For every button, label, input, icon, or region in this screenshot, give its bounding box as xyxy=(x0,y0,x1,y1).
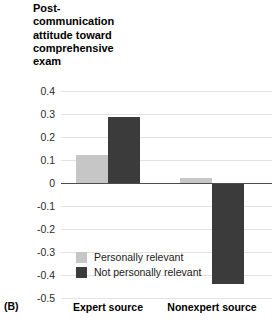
y-axis-tick-label: -0.1 xyxy=(9,201,55,212)
y-axis-tick-label: 0 xyxy=(9,178,55,189)
y-axis-tick-label: 0.2 xyxy=(9,132,55,143)
gridline xyxy=(61,114,272,115)
gridline xyxy=(61,298,272,299)
y-axis-tick-label: -0.3 xyxy=(9,247,55,258)
y-axis-tick-labels: 0.40.30.20.10-0.1-0.2-0.3-0.4-0.5 xyxy=(8,91,55,298)
y-axis-tick-label: 0.3 xyxy=(9,109,55,120)
y-axis-tick-label: 0.4 xyxy=(9,86,55,97)
legend-item-label: Not personally relevant xyxy=(94,267,201,278)
x-axis-tick-label: Expert source xyxy=(73,302,143,313)
chart-figure: Post- communication attitude toward comp… xyxy=(0,0,279,322)
legend-swatch-icon xyxy=(76,267,87,278)
x-axis-tick-labels: Expert sourceNonexpert source xyxy=(61,302,272,318)
y-axis-tick-label: -0.2 xyxy=(9,224,55,235)
y-axis-tick-label: 0.1 xyxy=(9,155,55,166)
legend-swatch-icon xyxy=(76,252,87,263)
legend-item: Not personally relevant xyxy=(76,265,201,280)
chart-title: Post- communication attitude toward comp… xyxy=(33,2,153,68)
legend-item: Personally relevant xyxy=(76,250,201,265)
legend-item-label: Personally relevant xyxy=(94,252,183,263)
bar xyxy=(212,183,244,284)
gridline xyxy=(61,137,272,138)
chart-legend: Personally relevantNot personally releva… xyxy=(76,250,201,280)
bar xyxy=(76,155,108,183)
y-axis-tick-label: -0.4 xyxy=(9,270,55,281)
zero-axis-line xyxy=(61,183,272,184)
x-axis-tick-label: Nonexpert source xyxy=(167,302,256,313)
bar xyxy=(108,117,140,183)
gridline xyxy=(61,91,272,92)
panel-label: (B) xyxy=(4,301,19,312)
